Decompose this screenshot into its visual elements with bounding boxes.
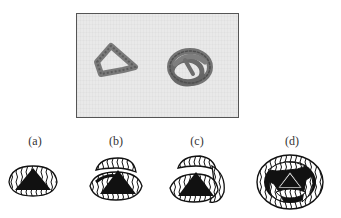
photo-panel [76, 13, 239, 118]
panel-label-a: (a) [20, 134, 50, 149]
diagram-a [5, 152, 60, 202]
panel-label-d: (d) [277, 134, 307, 149]
diagram-c [168, 152, 228, 208]
panel-label-b: (b) [101, 134, 131, 149]
photo-objects [77, 14, 240, 119]
diagram-d [254, 152, 326, 212]
panel-label-c: (c) [182, 134, 212, 149]
diagram-b [86, 152, 146, 204]
